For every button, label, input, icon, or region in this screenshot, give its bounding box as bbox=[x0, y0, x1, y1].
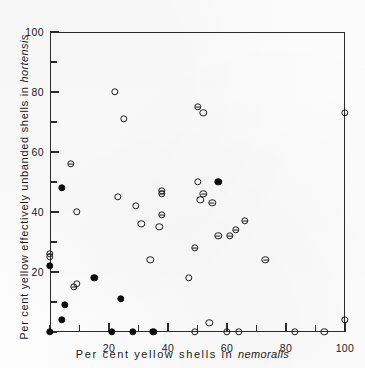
data-point-barred bbox=[262, 256, 269, 263]
data-point-open bbox=[185, 274, 192, 281]
y-axis-tick bbox=[50, 211, 59, 212]
x-axis-title: Per cent yellow shells in nemoralis bbox=[0, 348, 365, 360]
data-point-open bbox=[73, 208, 80, 215]
data-point-open bbox=[138, 220, 145, 227]
x-axis-tick bbox=[285, 323, 286, 332]
y-axis-tick bbox=[50, 301, 57, 302]
y-axis-title-italic: hortensis bbox=[18, 34, 30, 82]
y-axis-tick bbox=[50, 241, 57, 242]
data-point-open bbox=[155, 223, 162, 230]
x-axis-tick bbox=[256, 325, 257, 332]
y-axis-tick bbox=[50, 91, 59, 92]
data-point-barred bbox=[209, 199, 216, 206]
data-point-filled bbox=[58, 316, 65, 323]
y-axis-tick bbox=[50, 271, 59, 272]
data-point-open bbox=[147, 256, 154, 263]
x-axis-tick bbox=[138, 325, 139, 332]
data-point-barred bbox=[232, 226, 239, 233]
x-axis-tick bbox=[167, 323, 168, 332]
data-point-filled bbox=[58, 184, 65, 191]
data-point-barred bbox=[214, 232, 221, 239]
y-axis-title-plain: Per cent yellow effectively unbanded she… bbox=[18, 83, 30, 340]
scatter-plot-figure: 20406080100 20406080100 Per cent yellow … bbox=[0, 0, 365, 368]
y-axis-tick bbox=[50, 181, 57, 182]
data-point-barred bbox=[158, 211, 165, 218]
data-point-open bbox=[120, 115, 127, 122]
data-point-open bbox=[132, 202, 139, 209]
data-point-open bbox=[111, 88, 118, 95]
y-axis-tick-label: 40 bbox=[32, 206, 44, 218]
x-axis-tick bbox=[79, 325, 80, 332]
y-axis-tick bbox=[50, 61, 57, 62]
y-axis-tick bbox=[50, 121, 57, 122]
data-point-barred bbox=[200, 190, 207, 197]
data-point-barred bbox=[158, 190, 165, 197]
y-axis-tick-label: 80 bbox=[32, 86, 44, 98]
data-point-barred bbox=[191, 244, 198, 251]
data-point-filled bbox=[214, 178, 221, 185]
data-point-barred bbox=[226, 232, 233, 239]
data-point-filled bbox=[61, 301, 68, 308]
data-point-open bbox=[197, 196, 204, 203]
y-axis-tick-label: 20 bbox=[32, 266, 44, 278]
data-point-barred bbox=[67, 160, 74, 167]
x-axis-tick bbox=[344, 323, 345, 332]
data-point-barred bbox=[241, 217, 248, 224]
x-axis-title-plain: Per cent yellow shells in bbox=[76, 348, 238, 360]
y-axis-title: Per cent yellow effectively unbanded she… bbox=[18, 32, 30, 342]
data-point-open bbox=[200, 109, 207, 116]
plot-area bbox=[50, 32, 345, 332]
x-axis-title-italic: nemoralis bbox=[238, 348, 289, 360]
data-point-open bbox=[194, 178, 201, 185]
data-point-filled bbox=[91, 274, 98, 281]
x-axis-tick bbox=[315, 325, 316, 332]
data-point-open bbox=[114, 193, 121, 200]
data-point-open bbox=[206, 319, 213, 326]
data-point-open bbox=[341, 316, 348, 323]
data-point-open bbox=[341, 109, 348, 116]
y-axis-tick bbox=[50, 151, 59, 152]
y-axis-tick-label: 60 bbox=[32, 146, 44, 158]
data-point-filled bbox=[117, 295, 124, 302]
data-point-barred bbox=[70, 283, 77, 290]
y-axis-tick bbox=[50, 31, 59, 32]
